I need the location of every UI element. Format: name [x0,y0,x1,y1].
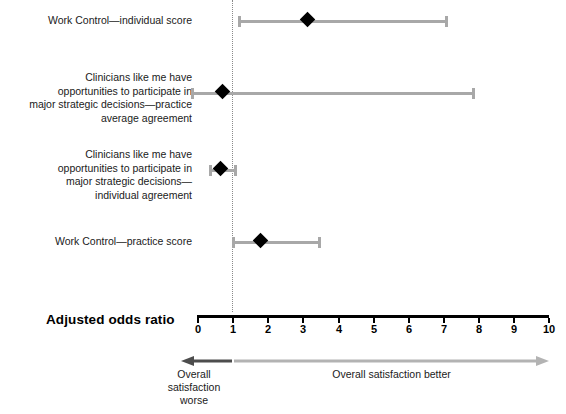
ci-cap-lower [238,16,241,27]
point-estimate-marker [215,84,231,100]
point-estimate-marker [213,161,229,177]
ci-cap-lower [191,88,194,99]
ci-bar [191,92,475,95]
x-axis-tick-label-4: 4 [324,323,354,335]
arrow-right-icon [234,355,549,367]
x-axis-tick-label-9: 9 [499,323,529,335]
x-axis-tick-label-7: 7 [429,323,459,335]
ci-cap-lower [232,237,235,248]
ci-bar [238,20,448,23]
x-axis-tick-label-0: 0 [183,323,213,335]
x-axis-tick-label-10: 10 [534,323,564,335]
forest-plot: Work Control—individual score Clinicians… [0,0,566,414]
point-estimate-marker [253,233,269,249]
axis-title-adjusted-odds-ratio: Adjusted odds ratio [46,312,175,327]
arrow-left-icon [181,355,232,367]
ci-row-work-control-practice-score [0,235,566,249]
x-axis-tick-label-1: 1 [218,323,248,335]
x-axis-tick-label-2: 2 [253,323,283,335]
ci-row-work-control-individual-score [0,14,566,28]
point-estimate-marker [300,12,316,28]
ci-cap-upper [234,165,237,176]
arrow-caption-overall-satisfaction-worse: Overall satisfaction worse [152,368,236,407]
ci-bar [232,241,321,244]
x-axis-tick-label-6: 6 [394,323,424,335]
reference-line-or-1 [232,0,233,312]
ci-cap-lower [209,165,212,176]
x-axis-tick-label-5: 5 [359,323,389,335]
arrow-caption-overall-satisfaction-better: Overall satisfaction better [234,368,549,381]
ci-row-strategic-decisions-practice-average [0,86,566,100]
x-axis-tick-label-3: 3 [288,323,318,335]
ci-cap-upper [445,16,448,27]
ci-cap-upper [472,88,475,99]
ci-row-strategic-decisions-individual [0,163,566,177]
x-axis-tick-label-8: 8 [464,323,494,335]
ci-cap-upper [318,237,321,248]
